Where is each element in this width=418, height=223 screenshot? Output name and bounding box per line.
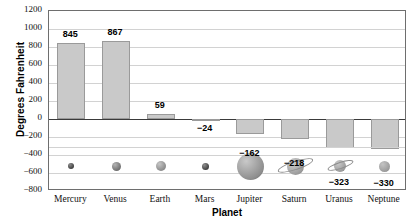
y-axis-tick-label: 0 bbox=[0, 113, 42, 122]
bar-venus[interactable] bbox=[102, 41, 130, 119]
y-axis-tick-label: 1200 bbox=[0, 5, 42, 14]
y-axis-tick-label: −400 bbox=[0, 149, 42, 158]
earth-icon bbox=[139, 149, 184, 183]
y-axis-tick-label: −800 bbox=[0, 185, 42, 194]
x-axis-label-uranus: Uranus bbox=[317, 194, 362, 204]
icon-band-divider bbox=[49, 147, 405, 148]
x-axis-label-earth: Earth bbox=[138, 194, 183, 204]
x-axis-title: Planet bbox=[48, 207, 406, 218]
bar-uranus[interactable] bbox=[326, 119, 354, 148]
y-axis-tick-label: 800 bbox=[0, 41, 42, 50]
mercury-icon bbox=[49, 149, 94, 183]
bar-value-label-neptune: −330 bbox=[356, 179, 412, 188]
bar-neptune[interactable] bbox=[371, 119, 399, 149]
y-axis-tick-label: 600 bbox=[0, 59, 42, 68]
y-axis-tick-label: 400 bbox=[0, 77, 42, 86]
y-axis-title: Degrees Fahrenheit bbox=[15, 14, 26, 166]
x-axis-label-mercury: Mercury bbox=[48, 194, 93, 204]
venus-icon bbox=[94, 149, 139, 183]
bar-value-label-saturn: −218 bbox=[266, 159, 322, 168]
x-axis-label-venus: Venus bbox=[93, 194, 138, 204]
y-axis-tick-label: −600 bbox=[0, 167, 42, 176]
x-axis-label-neptune: Neptune bbox=[361, 194, 406, 204]
bar-jupiter[interactable] bbox=[236, 119, 264, 134]
bar-mercury[interactable] bbox=[57, 43, 85, 119]
bar-saturn[interactable] bbox=[281, 119, 309, 139]
bar-value-label-mars: −24 bbox=[177, 124, 233, 133]
y-axis-tick-label: 200 bbox=[0, 95, 42, 104]
x-axis-label-jupiter: Jupiter bbox=[227, 194, 272, 204]
planet-body bbox=[156, 161, 166, 171]
bar-value-label-jupiter: −162 bbox=[221, 149, 277, 158]
planet-body bbox=[68, 163, 74, 169]
bar-value-label-earth: 59 bbox=[132, 101, 188, 110]
planet-body bbox=[379, 161, 390, 172]
bar-earth[interactable] bbox=[147, 114, 175, 119]
planet-body bbox=[202, 163, 209, 170]
bar-chart: Degrees Fahrenheit 120010008006004002000… bbox=[0, 0, 418, 223]
bar-value-label-venus: 867 bbox=[87, 28, 143, 37]
x-axis-label-saturn: Saturn bbox=[272, 194, 317, 204]
x-axis-label-mars: Mars bbox=[182, 194, 227, 204]
y-axis-tick-label: 1000 bbox=[0, 23, 42, 32]
plot-area bbox=[48, 10, 406, 190]
y-axis-tick-label: −200 bbox=[0, 131, 42, 140]
planet-body bbox=[112, 162, 121, 171]
bar-mars[interactable] bbox=[192, 119, 220, 121]
planet-body bbox=[334, 160, 346, 172]
